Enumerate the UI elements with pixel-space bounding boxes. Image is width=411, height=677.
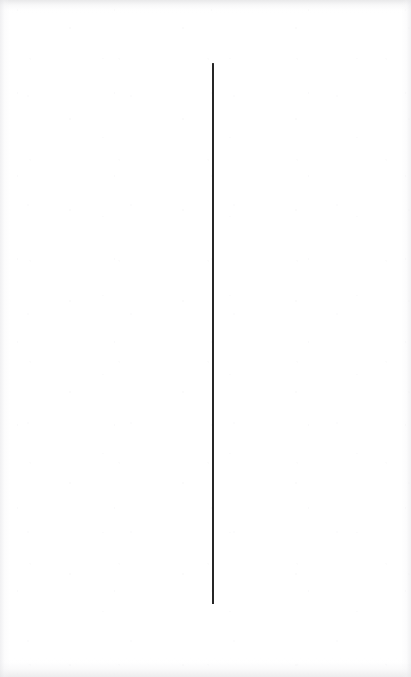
paper-grain-texture — [0, 0, 411, 677]
scanned-page: Blank white scanned page containing a si… — [0, 0, 411, 677]
vertical-rule — [212, 63, 214, 604]
left-edge-shadow — [0, 0, 10, 677]
top-edge-shadow — [0, 0, 411, 14]
right-edge-shadow — [401, 0, 411, 677]
bottom-edge-shadow — [0, 657, 411, 677]
